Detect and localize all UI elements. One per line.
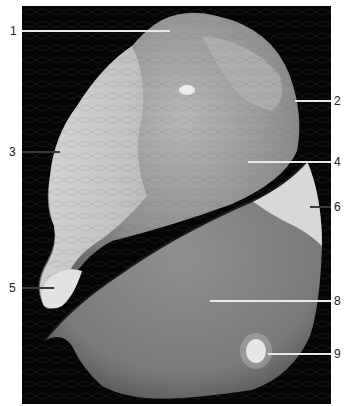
leader-line-8: [210, 300, 331, 302]
lung-specimen-illustration: [22, 6, 331, 404]
leader-line-3: [22, 151, 60, 153]
label-1: 1: [10, 25, 17, 37]
leader-line-1: [22, 30, 170, 32]
leader-line-4: [248, 161, 331, 163]
label-4: 4: [334, 156, 341, 168]
label-3: 3: [9, 146, 16, 158]
label-2: 2: [334, 95, 341, 107]
specimen-photo: [22, 6, 331, 404]
leader-line-5: [22, 287, 54, 289]
leader-line-9: [268, 353, 331, 355]
leader-line-2: [295, 100, 331, 102]
label-6: 6: [334, 201, 341, 213]
label-9: 9: [334, 348, 341, 360]
label-5: 5: [9, 282, 16, 294]
label-8: 8: [334, 295, 341, 307]
leader-line-6: [310, 206, 331, 208]
